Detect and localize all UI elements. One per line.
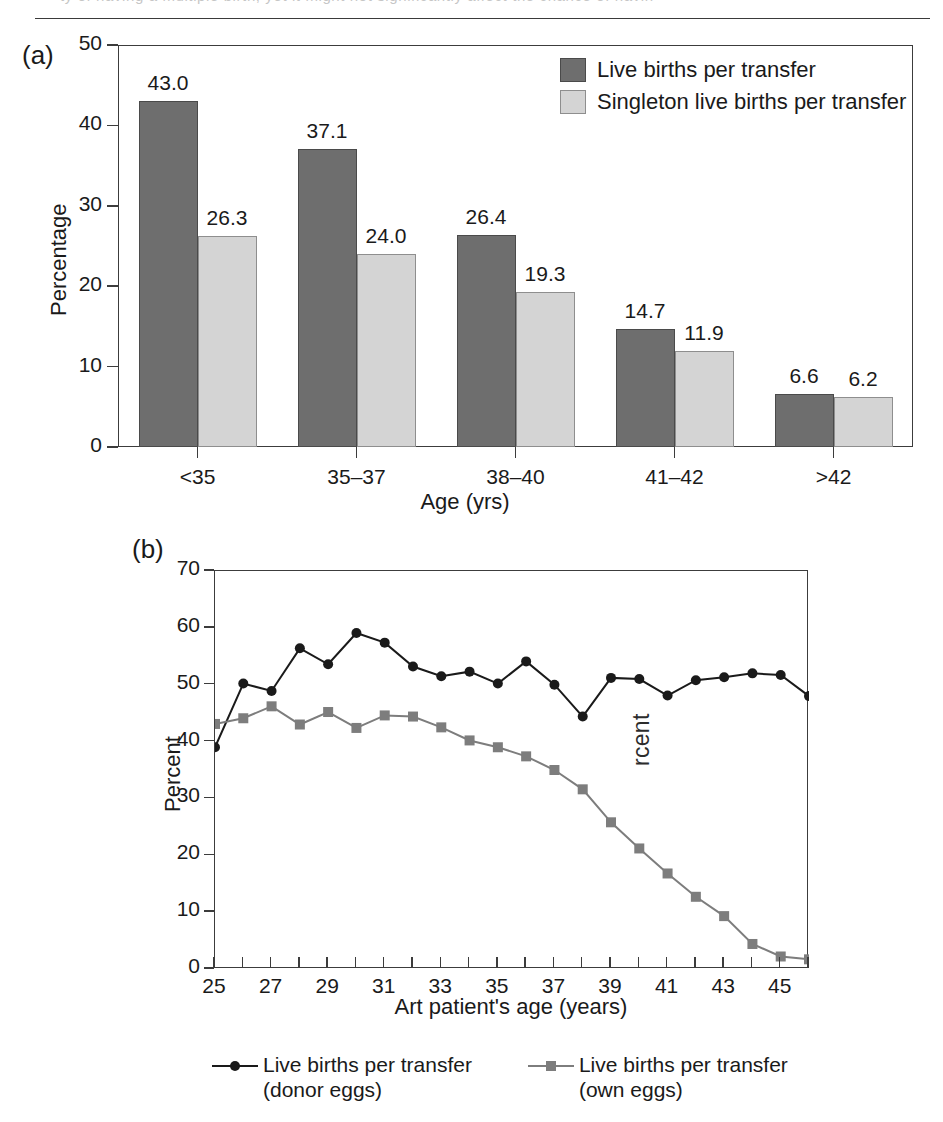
panel-b-x-tick-mark — [411, 957, 413, 968]
panel-b-data-point-square — [323, 707, 333, 717]
panel-b-x-tick-mark — [779, 957, 781, 968]
panel-a-legend-label: Singleton live births per transfer — [597, 89, 906, 115]
panel-b-x-tick-mark — [638, 957, 640, 968]
panel-b-x-tick-mark — [383, 957, 385, 968]
panel-b-data-point-circle — [691, 675, 701, 685]
panel-a-x-tick-mark — [833, 447, 835, 458]
panel-a-y-tick-mark — [107, 205, 118, 207]
panel-b-x-tick-mark — [270, 957, 272, 968]
panel-a-y-tick-label: 30 — [52, 192, 102, 216]
panel-b-data-point-square — [238, 713, 248, 723]
legend-swatch-icon — [560, 90, 586, 114]
panel-b-data-point-square — [747, 939, 757, 949]
legend-marker-icon — [528, 1055, 574, 1077]
panel-a-bar — [775, 394, 834, 447]
panel-a-y-tick-mark — [107, 285, 118, 287]
panel-b-x-tick-mark — [524, 957, 526, 968]
panel-b-data-point-circle — [380, 638, 390, 648]
panel-b-data-point-square — [549, 765, 559, 775]
panel-a-x-tick-label: 38–40 — [456, 465, 576, 489]
panel-b-x-tick-mark — [298, 957, 300, 968]
panel-a-bar — [516, 292, 575, 447]
panel-b-x-axis-title: Art patient's age (years) — [395, 994, 628, 1020]
panel-b-data-point-square — [380, 710, 390, 720]
panel-a-bar-value-label: 11.9 — [669, 321, 739, 345]
horizontal-rule — [35, 18, 930, 19]
panel-a-legend-entry: Singleton live births per transfer — [560, 89, 906, 115]
panel-b-data-point-circle — [493, 679, 503, 689]
panel-b-x-tick-mark — [468, 957, 470, 968]
panel-b-data-point-square — [578, 784, 588, 794]
panel-b-data-point-square — [436, 722, 446, 732]
panel-a-x-axis-title: Age (yrs) — [420, 489, 509, 515]
legend-swatch-icon — [560, 58, 586, 82]
panel-b-data-point-square — [691, 892, 701, 902]
panel-a-x-tick-label: >42 — [774, 465, 894, 489]
panel-b-data-point-circle — [719, 672, 729, 682]
panel-a-legend-entry: Live births per transfer — [560, 57, 906, 83]
panel-a-bar-value-label: 26.3 — [192, 206, 262, 230]
panel-a-y-tick-label: 40 — [52, 111, 102, 135]
panel-b-data-point-circle — [606, 673, 616, 683]
panel-b-legend-entry: Live births per transfer(donor eggs) — [212, 1052, 472, 1102]
panel-b-x-tick-mark — [751, 957, 753, 968]
panel-b-y-tick-mark — [204, 854, 214, 856]
panel-b-data-point-circle — [578, 712, 588, 722]
panel-b-x-tick-mark — [609, 957, 611, 968]
panel-a-x-tick-mark — [515, 447, 517, 458]
panel-b-legend-label-line1: Live births per transfer — [263, 1052, 472, 1077]
panel-b-y-tick-mark — [204, 626, 214, 628]
panel-b-x-tick-mark — [722, 957, 724, 968]
panel-a-y-tick-mark — [107, 446, 118, 448]
panel-a-legend: Live births per transferSingleton live b… — [560, 57, 906, 121]
panel-a-x-tick-label: <35 — [138, 465, 258, 489]
panel-b-data-point-circle — [295, 643, 305, 653]
panel-b-series-svg — [215, 571, 809, 969]
panel-a-bar — [675, 351, 734, 447]
page-top-bleed-text: ty of having a multiple birth, yet it mi… — [0, 0, 943, 12]
panel-a-bar — [139, 101, 198, 447]
panel-a-bar-value-label: 37.1 — [292, 119, 362, 143]
panel-a-y-tick-mark — [107, 125, 118, 127]
panel-a-y-axis-title: Percentage — [46, 203, 72, 316]
panel-b-x-tick-mark — [326, 957, 328, 968]
panel-b-y-tick-label: 40 — [152, 727, 200, 751]
panel-b-data-point-square — [493, 742, 503, 752]
panel-b-data-point-square — [295, 720, 305, 730]
panel-a-bar — [457, 235, 516, 447]
panel-b-data-point-circle — [549, 680, 559, 690]
panel-a-bar — [616, 329, 675, 447]
panel-b-y-tick-label: 30 — [152, 783, 200, 807]
panel-b-data-point-circle — [323, 659, 333, 669]
panel-b-data-point-circle — [776, 670, 786, 680]
panel-b-legend-label-line2: (donor eggs) — [263, 1077, 472, 1102]
panel-a-bar-value-label: 26.4 — [451, 205, 521, 229]
panel-a-bar-value-label: 24.0 — [351, 224, 421, 248]
panel-b-legend-label: Live births per transfer(donor eggs) — [263, 1052, 472, 1102]
panel-a-bar — [198, 236, 257, 447]
panel-b-x-tick-mark — [807, 957, 809, 968]
panel-b-y-tick-label: 20 — [152, 840, 200, 864]
panel-b-data-point-square — [719, 911, 729, 921]
panel-a-bar — [357, 254, 416, 447]
panel-b-x-tick-mark — [440, 957, 442, 968]
panel-b-data-point-square — [634, 843, 644, 853]
legend-marker-icon — [212, 1055, 258, 1077]
panel-b-legend-entry: Live births per transfer(own eggs) — [528, 1052, 788, 1102]
panel-b-data-point-square — [267, 701, 277, 711]
panel-b-x-tick-label: 45 — [740, 974, 820, 998]
panel-b-data-point-square — [351, 723, 361, 733]
panel-b-data-point-circle — [267, 686, 277, 696]
panel-a-bar — [298, 149, 357, 447]
panel-b-y-tick-mark — [204, 797, 214, 799]
panel-a-bar-value-label: 6.2 — [828, 367, 898, 391]
panel-b-data-point-square — [465, 735, 475, 745]
panel-b-data-point-square — [521, 751, 531, 761]
panel-a-y-tick-label: 20 — [52, 272, 102, 296]
panel-b-y-tick-label: 70 — [152, 556, 200, 580]
panel-a-x-tick-mark — [197, 447, 199, 458]
panel-b-legend: Live births per transfer(donor eggs)Live… — [212, 1052, 788, 1102]
panel-b-y-tick-mark — [204, 569, 214, 571]
panel-a-x-tick-label: 35–37 — [297, 465, 417, 489]
panel-a-legend-label: Live births per transfer — [597, 57, 816, 83]
